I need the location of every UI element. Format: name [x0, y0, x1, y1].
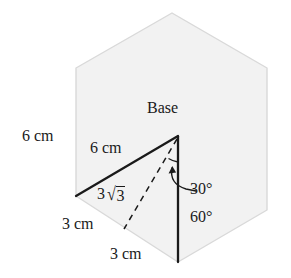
hypotenuse-measurement-label: 6 cm [90, 140, 122, 156]
angle-30-label: 30° [190, 181, 212, 197]
radical-sign-icon: √ [107, 186, 116, 202]
hexagonal-prism-shape [76, 13, 267, 262]
base-label: Base [147, 100, 178, 116]
angle-60-label: 60° [190, 209, 212, 225]
geometry-figure: Base 6 cm 6 cm 3 √ 3 30° 60° 3 cm 3 cm [0, 0, 291, 278]
radical-measurement-label: 3 √ 3 [97, 186, 125, 204]
base-bottom-measurement-label: 3 cm [110, 246, 142, 262]
base-left-measurement-label: 3 cm [62, 216, 94, 232]
radicand: 3 [116, 186, 125, 204]
radical-expression: √ 3 [107, 186, 125, 204]
height-measurement-label: 6 cm [22, 128, 54, 144]
radical-coefficient: 3 [97, 186, 107, 202]
